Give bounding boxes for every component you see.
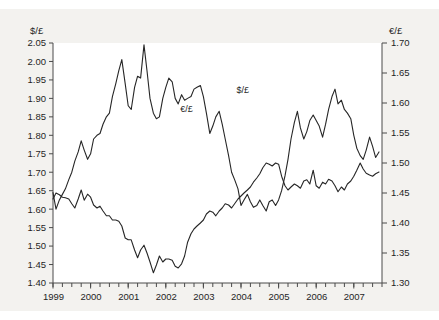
- x-tick-label: 2002: [156, 291, 177, 302]
- y2-tick-label: 1.65: [391, 67, 410, 78]
- y-tick-label: 1.40: [28, 277, 47, 288]
- series-annotation: $/£: [237, 85, 250, 95]
- y-tick-label: 1.60: [28, 204, 47, 215]
- y2-tick-label: 1.45: [391, 187, 410, 198]
- y-tick-label: 1.85: [28, 111, 47, 122]
- chart-canvas: 1.401.451.501.551.601.651.701.751.801.85…: [0, 0, 439, 320]
- y2-tick-label: 1.55: [391, 127, 410, 138]
- x-tick-label: 1999: [43, 291, 64, 302]
- right-axis-title: €/£: [389, 25, 403, 36]
- y-tick-label: 1.65: [28, 185, 47, 196]
- y2-tick-label: 1.50: [391, 157, 410, 168]
- y-tick-label: 1.95: [28, 74, 47, 85]
- y-tick-label: 1.80: [28, 130, 47, 141]
- x-tick-label: 2006: [306, 291, 327, 302]
- y-tick-label: 1.70: [28, 167, 47, 178]
- y-tick-label: 2.00: [28, 56, 47, 67]
- y2-tick-label: 1.40: [391, 217, 410, 228]
- y2-tick-label: 1.35: [391, 247, 410, 258]
- left-axis-title: $/£: [30, 25, 44, 36]
- y-tick-label: 1.55: [28, 222, 47, 233]
- bottom-band: [0, 311, 439, 320]
- plot-area-background: [53, 43, 382, 283]
- y2-tick-label: 1.70: [391, 37, 410, 48]
- exchange-rate-chart: 1.401.451.501.551.601.651.701.751.801.85…: [0, 0, 439, 320]
- x-tick-label: 2007: [344, 291, 365, 302]
- x-tick-label: 2001: [118, 291, 139, 302]
- x-tick-label: 2005: [269, 291, 290, 302]
- series-annotation: €/£: [180, 104, 193, 114]
- x-tick-label: 2004: [231, 291, 252, 302]
- y2-tick-label: 1.30: [391, 277, 410, 288]
- y-tick-label: 1.75: [28, 148, 47, 159]
- top-band: [0, 0, 439, 9]
- y-tick-label: 1.50: [28, 240, 47, 251]
- x-tick-label: 2000: [81, 291, 102, 302]
- y2-tick-label: 1.60: [391, 97, 410, 108]
- x-tick-label: 2003: [193, 291, 214, 302]
- y-tick-label: 1.90: [28, 93, 47, 104]
- y-tick-label: 1.45: [28, 259, 47, 270]
- y-tick-label: 2.05: [28, 37, 47, 48]
